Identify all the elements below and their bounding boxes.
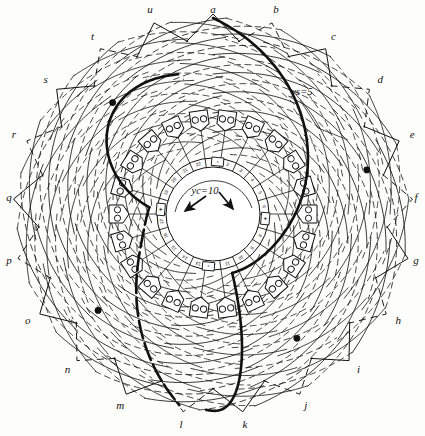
terminal-label-o: o — [25, 314, 31, 326]
terminal-label-i: i — [357, 363, 360, 375]
brush-marker: + — [156, 203, 165, 216]
terminal-label-d: d — [378, 73, 384, 85]
commutator-inner-circle — [166, 167, 260, 261]
terminal-label-m: m — [116, 399, 124, 411]
terminal-label-g: g — [413, 254, 419, 266]
commutator-pitch-label: yc=10 — [191, 185, 220, 196]
winding-diagram-figure: 12345678910111213141516171819202122 +-+-… — [0, 0, 425, 436]
terminal-label-p: p — [5, 254, 12, 266]
conductor-circle — [305, 207, 311, 213]
conductor-circle — [200, 115, 207, 122]
terminal-label-b: b — [273, 3, 279, 15]
commutator-pitch-annotation: yc=10 — [191, 185, 220, 196]
conductor-circle — [227, 117, 234, 124]
conductor-circle — [219, 115, 226, 122]
conductor-circle — [200, 306, 207, 313]
brush-marker: - — [211, 157, 224, 166]
conductor-circle — [114, 207, 120, 213]
terminal-label-a: a — [210, 3, 216, 15]
terminal-label-c: c — [331, 30, 336, 42]
coil-span-label: ys=5 — [290, 86, 312, 97]
conductor-circle — [219, 306, 226, 313]
terminal-label-s: s — [44, 73, 48, 85]
conductor-circle — [227, 304, 234, 311]
winding-node-marker — [293, 335, 300, 342]
terminal-label-e: e — [410, 128, 415, 140]
terminal-label-n: n — [65, 363, 71, 375]
diagram-canvas: 12345678910111213141516171819202122 +-+-… — [0, 0, 425, 436]
winding-node-marker — [95, 307, 102, 314]
brush-marker: - — [202, 262, 215, 271]
terminal-label-r: r — [12, 128, 17, 140]
winding-node-marker — [109, 99, 116, 106]
terminal-label-h: h — [396, 314, 402, 326]
brush-marker: + — [261, 212, 270, 225]
terminal-label-u: u — [147, 3, 153, 15]
winding-node-marker — [363, 167, 370, 174]
terminal-label-q: q — [6, 191, 12, 203]
conductor-circle — [192, 304, 199, 311]
conductor-circle — [305, 215, 311, 221]
conductor-circle — [192, 117, 199, 124]
conductor-circle — [114, 215, 120, 221]
terminal-label-l: l — [180, 418, 183, 430]
